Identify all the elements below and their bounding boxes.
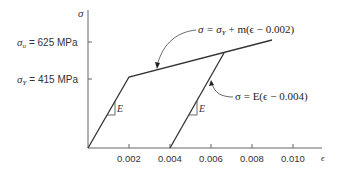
y-label-ultimate: σu= 625 MPa	[17, 36, 78, 50]
arrow-upper-icon	[155, 62, 160, 69]
y-label-yield: σY= 415 MPa	[17, 73, 78, 87]
x-axis-symbol: ϵ	[321, 153, 325, 163]
equation-lower: σ = E(ϵ − 0.004)	[235, 90, 308, 103]
slope-label-2: E	[198, 103, 205, 114]
x-tick-label: 0.004	[158, 153, 182, 164]
x-tick-label: 0.002	[117, 153, 141, 164]
equation-upper: σ = σY + m(ϵ − 0.002)	[198, 23, 295, 37]
arrow-lower-icon	[209, 80, 214, 86]
x-tick-label: 0.010	[281, 153, 305, 164]
unloading-line	[170, 53, 224, 148]
x-tick-label: 0.006	[199, 153, 223, 164]
leader-lower	[212, 83, 233, 97]
slope-label-1: E	[116, 103, 123, 114]
x-tick-label: 0.008	[240, 153, 264, 164]
y-axis-symbol: σ	[78, 7, 84, 19]
stress-strain-diagram: σ σu= 625 MPa σY= 415 MPa 0.002 0.004 0.…	[0, 0, 339, 172]
